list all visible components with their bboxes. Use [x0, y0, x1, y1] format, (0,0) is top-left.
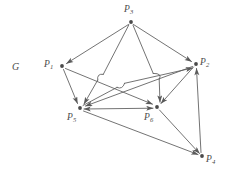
node-label-p4-base: P: [206, 154, 212, 164]
node-p5: [78, 106, 82, 110]
node-label-p6: P6: [144, 113, 153, 123]
node-label-p6-sub: 6: [150, 116, 153, 123]
node-label-p5-sub: 5: [73, 116, 76, 123]
node-label-p4-sub: 4: [212, 158, 215, 165]
edge-p5-p6-bidirectional: [84, 108, 153, 109]
node-label-p2-base: P: [200, 57, 206, 67]
edge-p1-p5: [64, 70, 78, 104]
node-label-p6-base: P: [144, 112, 150, 122]
graph-canvas: [0, 0, 226, 173]
node-p1: [60, 64, 64, 68]
node-label-p3-sub: 3: [130, 8, 133, 15]
node-p6: [155, 105, 159, 109]
node-label-p3: P3: [124, 5, 133, 15]
edge-p6-p4: [160, 110, 200, 154]
edge-hop-arc-2: [117, 83, 125, 88]
edge-p3-p2: [134, 25, 192, 62]
node-label-p1-base: P: [44, 59, 50, 69]
node-label-p2: P2: [200, 58, 209, 68]
node-label-p2-sub: 2: [206, 61, 209, 68]
node-label-p3-base: P: [124, 4, 130, 14]
node-p2: [194, 62, 198, 66]
node-p4: [200, 154, 204, 158]
node-label-p5: P5: [67, 113, 76, 123]
node-label-p1: P1: [44, 60, 53, 70]
edge-p4-p2: [197, 69, 202, 153]
edge-hop-arc-1: [98, 74, 104, 80]
graph-figure: G P1 P2 P3 P4 P5 P6: [0, 0, 226, 173]
node-p3: [129, 20, 133, 24]
graph-name-label: G: [12, 62, 19, 72]
node-label-p1-sub: 1: [50, 63, 53, 70]
node-label-p4: P4: [206, 155, 215, 165]
graph-edges: [64, 25, 202, 155]
edge-p3-p6: [133, 25, 160, 102]
node-label-p5-base: P: [67, 112, 73, 122]
